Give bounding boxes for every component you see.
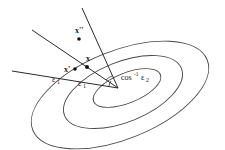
label-x-prime: x' — [64, 65, 70, 74]
outer-ellipse — [16, 19, 223, 150]
svg-text:cos: cos — [121, 73, 132, 82]
contour-ellipses — [16, 19, 223, 150]
label-x: x — [86, 54, 90, 63]
svg-text:2: 2 — [146, 77, 149, 83]
point-x — [85, 65, 89, 69]
svg-text:1: 1 — [57, 79, 60, 85]
label-x-double-prime: x'' — [75, 26, 83, 35]
label-epsilon1-inner: ε 1 — [78, 79, 86, 89]
svg-text:ε: ε — [141, 73, 145, 82]
inner-ellipse — [88, 61, 166, 116]
point-x-prime — [73, 67, 77, 71]
middle-ellipse — [53, 41, 192, 144]
diagram-canvas: x'' x' x ε 1 ε 1 cos -1 ε 2 — [0, 0, 225, 150]
svg-text:1: 1 — [83, 83, 86, 89]
label-epsilon1-outer: ε 1 — [52, 75, 60, 85]
svg-text:ε: ε — [78, 79, 82, 88]
rays — [12, 8, 118, 88]
point-x-double-prime — [77, 37, 81, 41]
svg-text:-1: -1 — [134, 71, 139, 77]
label-angle-cos-inverse-epsilon2: cos -1 ε 2 — [121, 71, 149, 83]
